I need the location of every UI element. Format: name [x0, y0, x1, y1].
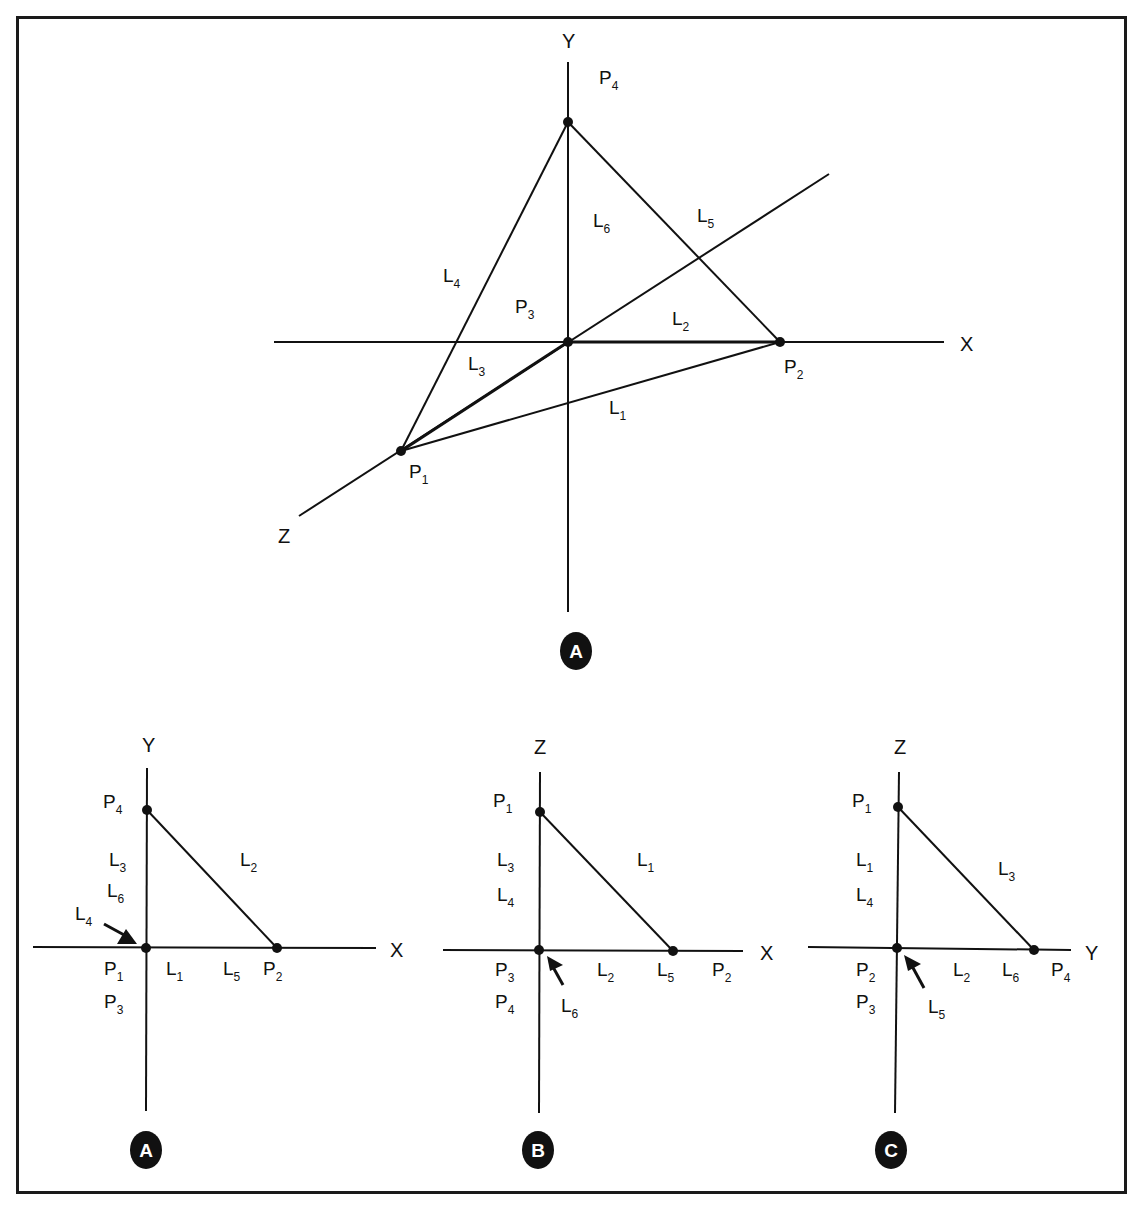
bottom-B-horizontal-axis-label: X	[760, 942, 773, 964]
point-P4	[563, 117, 573, 127]
bottom-C-label-origin-point-2: P3	[856, 991, 876, 1017]
svg-text:A: A	[139, 1140, 153, 1161]
label-L1: L1	[609, 397, 627, 423]
bottom-C-end-point	[1029, 945, 1039, 955]
badge-bottom-A: A	[130, 1131, 162, 1169]
bottom-C-label-origin-point-1: P2	[856, 959, 876, 985]
bottom-B-label-end-point: P2	[712, 959, 732, 985]
bottom-C-label-vertical-line-2: L4	[856, 884, 874, 910]
bottom-C-label-top-point: P1	[852, 790, 872, 816]
bottom-C-horizontal-axis-label: Y	[1085, 942, 1098, 964]
label-L2: L2	[672, 308, 690, 334]
label-P2: P2	[784, 356, 804, 382]
bottom-A-hypotenuse	[147, 810, 277, 948]
bottom-A-label-vertical-line-1: L3	[109, 849, 127, 875]
bottom-A-label-vertical-line-2: L6	[107, 880, 125, 906]
bottom-C-label-arrow-line: L5	[928, 996, 946, 1022]
bottom-B-horizontal-axis	[443, 950, 743, 951]
label-L3: L3	[468, 353, 486, 379]
bottom-A-label-top-point: P4	[103, 791, 123, 817]
top-z-axis-label: Z	[278, 525, 290, 547]
bottom-C-label-horizontal-line-1: L2	[953, 959, 971, 985]
bottom-B-label-arrow-line: L6	[561, 995, 579, 1021]
point-P3	[563, 337, 573, 347]
bottom-C-label-end-point: P4	[1051, 959, 1071, 985]
bottom-A-top-point	[142, 805, 152, 815]
badge-bottom-B: B	[522, 1131, 554, 1169]
svg-text:A: A	[569, 641, 583, 662]
bottom-diagram-A: Y X P4 L3 L6 L4 L2 P1 P3 L1 L5 P2 A	[33, 734, 403, 1169]
bottom-A-label-hypotenuse: L2	[240, 849, 258, 875]
bottom-A-label-origin-point-2: P3	[104, 991, 124, 1017]
bottom-C-vertical-axis	[895, 772, 899, 1113]
edge-L3	[401, 342, 568, 451]
bottom-B-vertical-axis-label: Z	[534, 736, 546, 758]
label-P4: P4	[599, 67, 619, 93]
bottom-B-label-top-point: P1	[493, 790, 513, 816]
bottom-diagram-B: Z X P1 L3 L4 L1 P3 P4 L6 L2 L5 P2 B	[443, 736, 773, 1169]
bottom-C-label-vertical-line-1: L1	[856, 849, 874, 875]
bottom-A-label-horizontal-line-2: L5	[223, 958, 241, 984]
badge-bottom-C: C	[875, 1131, 907, 1169]
bottom-A-label-arrow-line: L4	[75, 903, 93, 929]
bottom-B-label-vertical-line-1: L3	[497, 849, 515, 875]
svg-text:C: C	[884, 1140, 898, 1161]
bottom-C-origin-point	[892, 943, 902, 953]
point-P1	[396, 446, 406, 456]
bottom-B-vertical-axis	[539, 772, 540, 1113]
bottom-A-vertical-axis-label: Y	[142, 734, 155, 756]
bottom-C-top-point	[893, 802, 903, 812]
bottom-B-label-origin-point-1: P3	[495, 959, 515, 985]
label-L4: L4	[443, 265, 461, 291]
diagram-canvas: Y X Z P4 P3 P2 P1 L4 L6 L5 L2 L3 L1 A	[0, 0, 1147, 1209]
bottom-B-label-hypotenuse: L1	[637, 849, 655, 875]
top-diagram: Y X Z P4 P3 P2 P1 L4 L6 L5 L2 L3 L1 A	[274, 30, 973, 670]
edge-L1	[401, 342, 780, 451]
bottom-A-end-point	[272, 943, 282, 953]
bottom-C-label-horizontal-line-2: L6	[1002, 959, 1020, 985]
svg-text:B: B	[531, 1140, 545, 1161]
bottom-C-label-hypotenuse: L3	[998, 858, 1016, 884]
bottom-B-label-horizontal-line-1: L2	[597, 959, 615, 985]
arrow-icon	[104, 924, 137, 944]
bottom-A-horizontal-axis	[33, 947, 376, 948]
point-P2	[775, 337, 785, 347]
top-y-axis-label: Y	[562, 30, 575, 52]
bottom-B-label-horizontal-line-2: L5	[657, 959, 675, 985]
bottom-A-vertical-axis	[146, 768, 147, 1111]
top-x-axis-label: X	[960, 333, 973, 355]
bottom-A-origin-point	[141, 943, 151, 953]
badge-top-A: A	[560, 632, 592, 670]
label-L5: L5	[697, 205, 715, 231]
label-P1: P1	[409, 461, 429, 487]
arrow-icon	[904, 955, 924, 988]
bottom-B-hypotenuse	[540, 812, 673, 951]
edge-L4	[401, 122, 568, 451]
bottom-A-label-horizontal-line-1: L1	[166, 958, 184, 984]
label-L6: L6	[593, 210, 611, 236]
bottom-A-label-origin-point-1: P1	[104, 958, 124, 984]
arrow-icon	[547, 956, 563, 985]
bottom-B-top-point	[535, 807, 545, 817]
bottom-B-origin-point	[534, 945, 544, 955]
bottom-B-label-vertical-line-2: L4	[497, 884, 515, 910]
bottom-diagram-C: Z Y P1 L1 L4 L3 P2 P3 L5 L2 L6 P4 C	[808, 736, 1098, 1169]
label-P3: P3	[515, 296, 535, 322]
bottom-A-label-end-point: P2	[263, 958, 283, 984]
bottom-B-end-point	[668, 946, 678, 956]
bottom-C-vertical-axis-label: Z	[894, 736, 906, 758]
bottom-B-label-origin-point-2: P4	[495, 991, 515, 1017]
bottom-A-horizontal-axis-label: X	[390, 939, 403, 961]
